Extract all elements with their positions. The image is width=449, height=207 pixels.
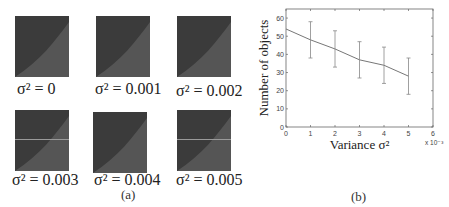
x-tick-label: 0: [284, 130, 288, 137]
panel-b-label: (b): [351, 189, 366, 205]
x-tick-label: 2: [333, 130, 337, 137]
y-tick-label: 30: [276, 69, 284, 76]
x-tick-label: 1: [309, 130, 313, 137]
x-axis-label: Variance σ²: [330, 137, 390, 152]
y-axis-label: Number of objects: [256, 20, 271, 117]
y-tick-label: 10: [276, 105, 284, 112]
x-tick-label: 5: [407, 130, 411, 137]
line-chart: 01234560102030405060x 10⁻³Variance σ²Num…: [0, 0, 449, 207]
x-multiplier: x 10⁻³: [425, 139, 444, 146]
y-tick-label: 0: [280, 124, 284, 131]
y-tick-label: 60: [276, 15, 284, 22]
y-tick-label: 20: [276, 87, 284, 94]
x-tick-label: 6: [431, 130, 435, 137]
x-tick-label: 3: [358, 130, 362, 137]
x-tick-label: 4: [382, 130, 386, 137]
y-tick-label: 50: [276, 33, 284, 40]
y-tick-label: 40: [276, 51, 284, 58]
data-line: [286, 29, 409, 76]
